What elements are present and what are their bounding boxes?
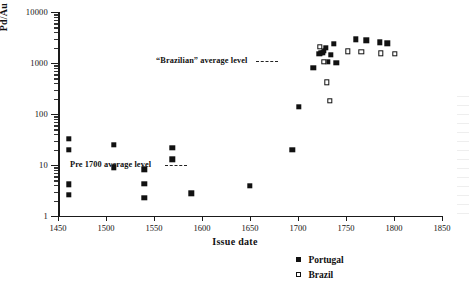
data-point-portugal (142, 195, 147, 200)
filled-square-icon (296, 257, 301, 262)
data-point-portugal (290, 147, 295, 152)
y-minor-tick (54, 39, 59, 40)
annotation-leader-0 (256, 61, 278, 62)
annotation-label-1: Pre 1700 average level (70, 160, 151, 169)
y-tick-10000 (51, 12, 58, 13)
scan-artifact (457, 96, 469, 220)
data-point-brazil (359, 49, 364, 54)
legend-item-brazil: Brazil (296, 267, 344, 282)
data-point-portugal (66, 136, 71, 141)
x-tick-label-1750: 1750 (338, 223, 355, 233)
data-point-portugal (142, 181, 147, 186)
data-point-portugal (170, 145, 175, 150)
x-tick-1750 (346, 216, 347, 221)
x-tick-label-1550: 1550 (146, 223, 163, 233)
y-minor-tick (54, 14, 59, 15)
y-tick-label-10: 10 (39, 160, 48, 170)
data-point-portugal (385, 40, 390, 45)
x-tick-1800 (394, 216, 395, 221)
x-tick-1600 (202, 216, 203, 221)
data-point-brazil (324, 80, 329, 85)
y-minor-tick (54, 201, 59, 202)
data-point-brazil (345, 49, 350, 54)
data-point-brazil (321, 59, 326, 64)
data-point-portugal (377, 40, 382, 45)
data-point-portugal (170, 156, 175, 161)
y-minor-tick (54, 122, 59, 123)
data-point-portugal (66, 182, 71, 187)
y-minor-tick (54, 68, 59, 69)
y-minor-tick (54, 150, 59, 151)
y-tick-label-1000: 1000 (30, 58, 48, 68)
legend-label-portugal: Portugal (308, 255, 343, 265)
y-minor-tick (54, 125, 59, 126)
y-minor-tick (54, 116, 59, 117)
y-minor-tick (54, 99, 59, 100)
plot-area: 110100100010000 145015001550160016501700… (58, 12, 442, 216)
data-point-portugal (311, 65, 316, 70)
y-minor-tick (54, 71, 59, 72)
y-minor-tick (54, 173, 59, 174)
data-point-portugal (111, 142, 116, 147)
y-minor-tick (54, 119, 59, 120)
y-minor-tick (54, 134, 59, 135)
y-tick-1 (51, 216, 58, 217)
y-minor-tick (54, 74, 59, 75)
y-minor-tick (54, 27, 59, 28)
y-minor-tick (54, 167, 59, 168)
y-minor-tick (54, 141, 59, 142)
legend-item-portugal: Portugal (296, 252, 344, 267)
open-square-icon (296, 272, 301, 277)
data-point-portugal (363, 37, 368, 42)
y-minor-tick (54, 65, 59, 66)
annotation-label-0: “Brazilian” average level (156, 56, 247, 65)
x-tick-label-1800: 1800 (386, 223, 403, 233)
data-point-portugal (189, 190, 194, 195)
x-tick-label-1600: 1600 (194, 223, 211, 233)
y-minor-tick (54, 180, 59, 181)
y-tick-10 (51, 165, 58, 166)
x-tick-label-1500: 1500 (98, 223, 115, 233)
y-minor-tick (54, 78, 59, 79)
y-tick-label-10000: 10000 (26, 7, 48, 17)
chart-figure: Pd/Au in ppm Issue date 110100100010000 … (0, 0, 470, 293)
y-minor-tick (54, 90, 59, 91)
y-minor-tick (54, 185, 59, 186)
x-tick-label-1850: 1850 (434, 223, 451, 233)
data-point-brazil (317, 44, 322, 49)
data-point-portugal (334, 60, 339, 65)
y-minor-tick (54, 170, 59, 171)
y-minor-tick (54, 192, 59, 193)
data-point-portugal (328, 52, 333, 57)
annotation-leader-1 (165, 165, 187, 166)
legend-label-brazil: Brazil (308, 270, 333, 280)
y-minor-tick (54, 23, 59, 24)
y-axis-title: Pd/Au in ppm (0, 0, 9, 60)
y-minor-tick (54, 32, 59, 33)
x-tick-label-1700: 1700 (290, 223, 307, 233)
data-point-brazil (327, 98, 332, 103)
x-tick-label-1450: 1450 (50, 223, 67, 233)
data-point-portugal (353, 37, 358, 42)
data-point-portugal (323, 45, 328, 50)
data-point-brazil (378, 51, 383, 56)
chart-legend: Portugal Brazil (296, 252, 344, 282)
y-tick-label-100: 100 (35, 109, 48, 119)
x-tick-1450 (58, 216, 59, 221)
x-tick-1650 (250, 216, 251, 221)
data-point-portugal (296, 104, 301, 109)
y-minor-tick (54, 83, 59, 84)
y-minor-tick (54, 17, 59, 18)
y-tick-label-1: 1 (44, 211, 48, 221)
y-tick-1000 (51, 63, 58, 64)
y-minor-tick (54, 48, 59, 49)
x-axis-title: Issue date (0, 236, 470, 247)
x-tick-1700 (298, 216, 299, 221)
data-point-portugal (66, 147, 71, 152)
x-tick-1850 (442, 216, 443, 221)
x-tick-1500 (106, 216, 107, 221)
data-point-portugal (331, 41, 336, 46)
y-minor-tick (54, 129, 59, 130)
y-minor-tick (54, 176, 59, 177)
data-point-brazil (392, 51, 397, 56)
